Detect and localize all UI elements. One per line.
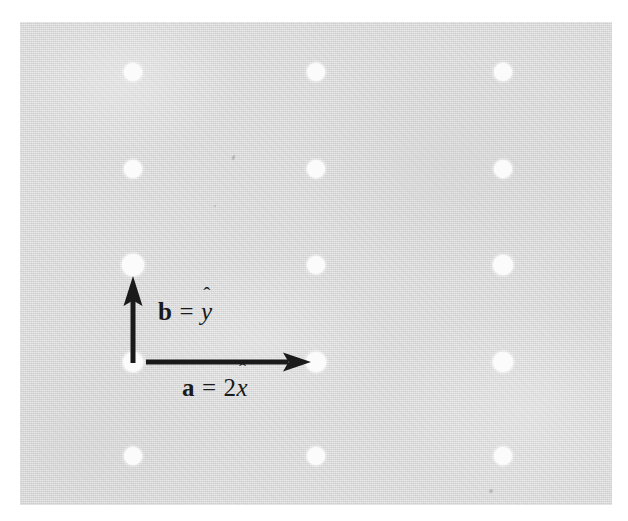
lattice-dot — [307, 63, 325, 81]
lattice-dot — [493, 352, 513, 372]
vector-a-name: a — [182, 374, 195, 401]
vector-a-coefficient: 2 — [224, 374, 237, 401]
lattice-dot — [307, 256, 325, 274]
lattice-dot — [494, 447, 512, 465]
lattice-dot — [307, 447, 325, 465]
lattice-dot — [124, 447, 142, 465]
vector-a-unit: ˆx — [237, 374, 249, 401]
hat-accent-icon: ˆ — [239, 361, 247, 382]
lattice-dot — [494, 160, 512, 178]
lattice-dot — [494, 63, 512, 81]
lattice-dot — [122, 254, 144, 276]
vector-a-label: a=2ˆx — [182, 375, 248, 400]
lattice-figure: b=ˆy a=2ˆx — [0, 0, 628, 521]
vector-b-label: b=ˆy — [158, 299, 213, 324]
lattice-dot — [307, 160, 325, 178]
lattice-dot — [306, 352, 326, 372]
lattice-dot — [493, 255, 513, 275]
vector-b-unit: ˆy — [201, 298, 213, 325]
lattice-dot — [123, 352, 143, 372]
lattice-dot — [124, 160, 142, 178]
vector-a-equals: = — [202, 374, 217, 401]
hat-accent-icon: ˆ — [203, 285, 211, 306]
scan-speck — [489, 489, 493, 493]
scan-speck — [214, 205, 216, 207]
lattice-dot — [124, 63, 142, 81]
vector-b-name: b — [158, 298, 172, 325]
vector-b-equals: = — [179, 298, 194, 325]
